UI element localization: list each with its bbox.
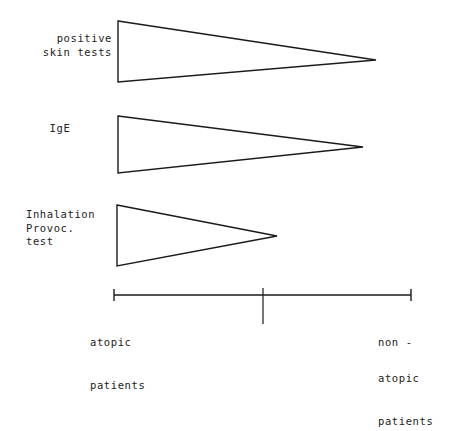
axis-label-atopic-line-2: patients (90, 379, 210, 391)
axis-label-non-atopic-line-1: non - (378, 336, 457, 348)
row-label-inhalation-provoc-test: Inhalation Provoc. test (26, 208, 122, 249)
axis-label-non-atopic-line-2: atopic (378, 372, 457, 384)
axis-label-atopic-patients: atopic patients (90, 312, 210, 415)
row-label-positive-skin-tests: positive skin tests (8, 32, 112, 59)
axis-label-non-atopic-line-3: patients (378, 415, 457, 427)
row-label-ige: IgE (8, 122, 112, 136)
wedge-inhalation-provoc-test (117, 205, 277, 266)
wedge-positive-skin-tests (118, 21, 376, 82)
wedge-ige (118, 116, 363, 173)
axis-label-non-atopic-patients: non - atopic patients (378, 312, 457, 431)
axis-label-atopic-line-1: atopic (90, 336, 210, 348)
